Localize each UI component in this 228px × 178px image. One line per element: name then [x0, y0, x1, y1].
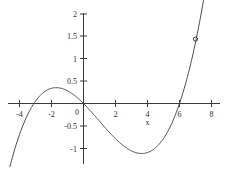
chart-background	[0, 0, 228, 178]
x-tick-label--2: -2	[48, 110, 55, 119]
y-tick-label-2: 2	[73, 10, 77, 19]
y-tick-label--1: -1	[70, 145, 77, 154]
x-tick-label-2: 2	[114, 110, 118, 119]
x-tick-label-8: 8	[210, 110, 214, 119]
y-tick-label--0.5: -0.5	[64, 122, 77, 131]
x-tick-label--4: -4	[16, 110, 23, 119]
y-tick-label-1: 1	[73, 55, 77, 64]
x-axis-label: x	[146, 118, 150, 127]
y-tick-label-1.5: 1.5	[67, 32, 77, 41]
chart-container: -4 -2 0 2 4 6 8 x -1 -0.5 0.5 1 1.5 2	[0, 0, 228, 178]
x-tick-label-6: 6	[178, 110, 182, 119]
y-tick-label-0.5: 0.5	[67, 77, 77, 86]
plot-svg: -4 -2 0 2 4 6 8 x -1 -0.5 0.5 1 1.5 2	[0, 0, 228, 178]
x-tick-label-0: 0	[75, 108, 79, 117]
